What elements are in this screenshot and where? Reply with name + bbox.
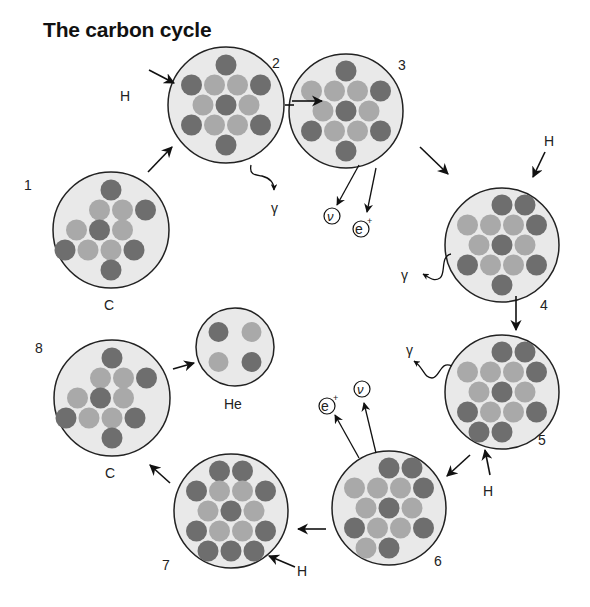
positron-arrow-3: [367, 168, 376, 212]
neutron: [367, 518, 388, 539]
proton: [216, 95, 237, 116]
proton: [244, 541, 265, 562]
proton: [135, 200, 156, 221]
svg-text:e: e: [355, 221, 363, 237]
neutron: [480, 215, 501, 236]
neutron: [242, 322, 262, 342]
proton: [216, 55, 237, 76]
neutron: [232, 481, 253, 502]
positron-3: e +: [353, 216, 372, 237]
svg-text:e: e: [321, 398, 329, 414]
neutron: [112, 200, 133, 221]
helium-nucleus: [196, 308, 274, 386]
neutron: [204, 115, 225, 136]
proton: [89, 220, 110, 241]
neutron: [390, 478, 411, 499]
h-arrow-7: [269, 556, 295, 567]
neutron: [101, 240, 122, 261]
neutron: [324, 81, 345, 102]
neutron: [79, 408, 100, 429]
proton: [102, 428, 123, 449]
gamma-wave-5: [414, 361, 452, 378]
neutron: [367, 478, 388, 499]
proton: [255, 481, 276, 502]
step-number: 4: [540, 297, 548, 313]
svg-text:ν: ν: [357, 382, 364, 397]
proton: [242, 352, 262, 372]
neutron: [503, 215, 524, 236]
h-label-4: H: [544, 133, 554, 149]
h-label-5: H: [483, 483, 493, 499]
positron-6: e +: [319, 393, 338, 414]
gamma-label-2: γ: [271, 200, 278, 216]
element-label: C: [104, 297, 114, 313]
proton: [186, 521, 207, 542]
proton: [469, 422, 490, 443]
neutron: [78, 240, 99, 261]
proton: [457, 255, 478, 276]
neutron: [227, 115, 248, 136]
nucleus-step-8: [54, 340, 170, 456]
proton: [336, 61, 357, 82]
proton: [413, 478, 434, 499]
proton: [198, 541, 219, 562]
h-label-7: H: [297, 563, 307, 579]
proton: [492, 235, 513, 256]
arrow-7-to-8: [150, 465, 170, 483]
step-number: 8: [35, 340, 43, 356]
step-number: 3: [398, 57, 406, 73]
neutron: [356, 538, 377, 559]
neutron: [112, 220, 133, 241]
neutron: [90, 368, 111, 389]
arrow-1-to-2: [148, 147, 172, 172]
neutron: [457, 215, 478, 236]
proton: [344, 518, 365, 539]
proton: [136, 368, 157, 389]
neutron: [239, 95, 260, 116]
proton: [492, 195, 513, 216]
neutrino-6: ν: [354, 381, 370, 397]
proton: [301, 121, 322, 142]
proton: [232, 461, 253, 482]
neutron: [209, 352, 229, 372]
neutron: [324, 121, 345, 142]
neutron: [113, 368, 134, 389]
neutron: [359, 101, 380, 122]
neutron: [193, 95, 214, 116]
proton: [209, 461, 230, 482]
neutron: [515, 235, 536, 256]
proton: [492, 342, 513, 363]
step-number: 7: [162, 557, 170, 573]
neutron: [503, 255, 524, 276]
carbon-cycle-diagram: H H H H γ γ γ ν e + e + ν 1C2345678CHe: [0, 0, 590, 607]
element-label: C: [105, 465, 115, 481]
proton: [515, 195, 536, 216]
neutron: [227, 75, 248, 96]
proton: [124, 240, 145, 261]
step-number: 5: [538, 432, 546, 448]
neutron: [313, 101, 334, 122]
neutron: [356, 498, 377, 519]
proton: [181, 75, 202, 96]
neutron: [89, 200, 110, 221]
neutron: [209, 521, 230, 542]
proton: [336, 141, 357, 162]
proton: [186, 481, 207, 502]
proton: [492, 422, 513, 443]
neutron: [402, 498, 423, 519]
gamma-emissions: [251, 165, 452, 378]
h-arrow-4: [533, 152, 545, 177]
arrow-3-to-4: [420, 147, 448, 174]
proton: [526, 362, 547, 383]
element-label: He: [224, 396, 242, 412]
proton: [221, 501, 242, 522]
proton: [526, 402, 547, 423]
neutron: [102, 408, 123, 429]
proton: [221, 541, 242, 562]
neutrino-arrow-3: [337, 165, 359, 205]
neutron: [457, 362, 478, 383]
proton: [255, 521, 276, 542]
neutron: [344, 478, 365, 499]
step-number: 2: [272, 55, 280, 71]
proton: [216, 135, 237, 156]
